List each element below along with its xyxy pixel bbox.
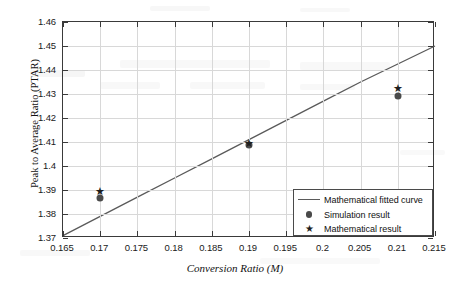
- mathematical-result-point: ★: [95, 186, 105, 197]
- legend-label: Simulation result: [324, 210, 390, 220]
- x-tick-label: 0.195: [274, 242, 297, 253]
- y-tick-right: [428, 142, 433, 143]
- x-gridline: [137, 22, 138, 236]
- y-tick-label: 1.41: [18, 136, 56, 147]
- y-gridline: [63, 166, 433, 167]
- legend-item-mathematical-result: ★ Mathematical result: [294, 221, 432, 236]
- legend-circle-icon: [294, 211, 324, 218]
- y-tick-label: 1.43: [18, 88, 56, 99]
- y-gridline: [63, 46, 433, 47]
- y-tick: [63, 190, 68, 191]
- x-tick-label: 0.205: [348, 242, 371, 253]
- y-tick-right: [428, 22, 433, 23]
- y-tick-label: 1.39: [18, 184, 56, 195]
- x-tick-label: 0.175: [125, 242, 148, 253]
- x-tick: [435, 231, 436, 236]
- y-gridline: [63, 118, 433, 119]
- y-tick: [63, 70, 68, 71]
- chart-legend: Mathematical fitted curve Simulation res…: [293, 189, 433, 236]
- x-tick-label: 0.17: [90, 242, 108, 253]
- x-tick-top: [100, 22, 101, 27]
- x-gridline: [286, 22, 287, 236]
- legend-label: Mathematical result: [324, 224, 401, 234]
- x-tick-top: [361, 22, 362, 27]
- x-tick-label: 0.185: [199, 242, 222, 253]
- x-axis-label: Conversion Ratio (M): [0, 262, 470, 274]
- x-gridline: [100, 22, 101, 236]
- legend-star-icon: ★: [294, 224, 324, 234]
- y-tick-right: [428, 238, 433, 239]
- y-tick-right: [428, 118, 433, 119]
- x-tick-top: [435, 22, 436, 27]
- y-tick-label: 1.42: [18, 112, 56, 123]
- x-tick-top: [286, 22, 287, 27]
- x-gridline: [249, 22, 250, 236]
- y-tick-label: 1.38: [18, 208, 56, 219]
- y-tick-label: 1.37: [18, 232, 56, 243]
- x-tick: [249, 231, 250, 236]
- y-tick-label: 1.44: [18, 64, 56, 75]
- x-tick: [100, 231, 101, 236]
- x-tick-top: [137, 22, 138, 27]
- y-tick: [63, 94, 68, 95]
- y-tick-right: [428, 94, 433, 95]
- y-tick: [63, 238, 68, 239]
- x-tick-top: [398, 22, 399, 27]
- mathematical-result-point: ★: [393, 83, 403, 94]
- y-tick: [63, 46, 68, 47]
- y-tick-label: 1.46: [18, 16, 56, 27]
- x-gridline: [175, 22, 176, 236]
- x-tick-top: [249, 22, 250, 27]
- legend-item-simulation-result: Simulation result: [294, 207, 432, 222]
- x-tick: [175, 231, 176, 236]
- y-tick: [63, 142, 68, 143]
- x-gridline: [212, 22, 213, 236]
- y-tick-label: 1.45: [18, 40, 56, 51]
- x-tick-top: [212, 22, 213, 27]
- x-tick-label: 0.215: [422, 242, 445, 253]
- y-tick-right: [428, 46, 433, 47]
- legend-label: Mathematical fitted curve: [324, 195, 423, 205]
- legend-item-fitted-curve: Mathematical fitted curve: [294, 192, 432, 207]
- x-tick-label: 0.2: [316, 242, 329, 253]
- y-tick: [63, 22, 68, 23]
- x-tick-label: 0.21: [388, 242, 406, 253]
- legend-line-icon: [294, 199, 324, 200]
- y-tick-label: 1.4: [18, 160, 56, 171]
- y-tick: [63, 214, 68, 215]
- x-tick-top: [175, 22, 176, 27]
- x-tick: [212, 231, 213, 236]
- y-tick-right: [428, 70, 433, 71]
- mathematical-result-point: ★: [244, 138, 254, 149]
- x-tick: [137, 231, 138, 236]
- x-tick: [63, 231, 64, 236]
- x-tick-top: [323, 22, 324, 27]
- x-tick-label: 0.165: [50, 242, 73, 253]
- y-gridline: [63, 70, 433, 71]
- x-tick: [286, 231, 287, 236]
- y-tick: [63, 166, 68, 167]
- chart-figure: ★★★ Conversion Ratio (M) Peak to Average…: [0, 0, 470, 282]
- y-tick-right: [428, 166, 433, 167]
- y-gridline: [63, 94, 433, 95]
- x-tick-label: 0.19: [239, 242, 257, 253]
- x-tick-label: 0.18: [165, 242, 183, 253]
- y-tick: [63, 118, 68, 119]
